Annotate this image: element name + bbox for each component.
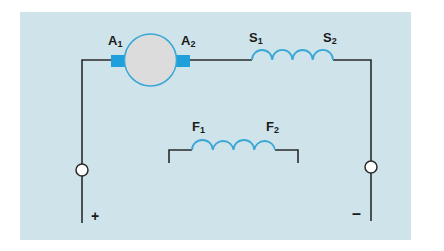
negative-terminal: [365, 161, 377, 173]
positive-label: +: [91, 208, 99, 224]
right-brush: [175, 55, 190, 67]
negative-label: –: [352, 205, 361, 222]
left-brush: [111, 55, 126, 67]
armature-circle: [125, 34, 177, 86]
positive-terminal: [76, 164, 88, 176]
motor-circuit-diagram: A1 A2 S1 S2 F1 F2 + –: [0, 0, 444, 251]
